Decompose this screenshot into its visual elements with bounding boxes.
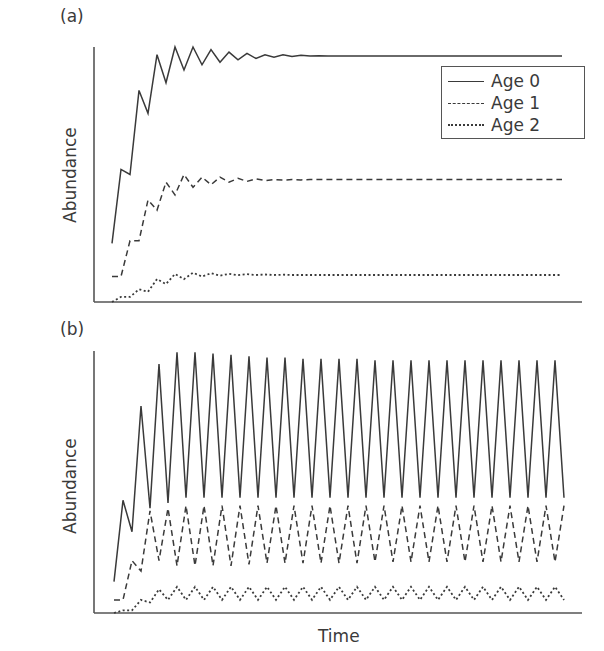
- panel-a-age-2-line: [112, 273, 562, 302]
- legend-label: Age 0: [491, 71, 540, 91]
- x-axis-label: Time: [318, 626, 360, 646]
- panel-b-y-label: Abundance: [60, 442, 80, 534]
- dotted-line-swatch-icon: [448, 124, 484, 126]
- legend-item-age-0: Age 0: [448, 70, 578, 92]
- panel-a-y-label: Abundance: [60, 131, 80, 223]
- dashed-line-swatch-icon: [448, 103, 484, 104]
- legend: Age 0 Age 1 Age 2: [441, 66, 585, 139]
- panel-b-label: (b): [60, 319, 84, 339]
- population-figure: (a) (b) Abundance Abundance Time Age 0 A…: [0, 0, 604, 651]
- panel-b-age-0-line: [114, 352, 564, 581]
- panel-a-age-1-line: [112, 175, 562, 277]
- panel-a-label: (a): [60, 6, 84, 26]
- panel-b-age-2-line: [114, 587, 564, 613]
- legend-item-age-1: Age 1: [448, 92, 578, 114]
- solid-line-swatch-icon: [448, 81, 484, 82]
- legend-label: Age 2: [491, 115, 540, 135]
- legend-label: Age 1: [491, 93, 540, 113]
- legend-item-age-2: Age 2: [448, 114, 578, 136]
- panel-b-age-1-line: [114, 506, 564, 600]
- panel-b-series: [114, 352, 564, 613]
